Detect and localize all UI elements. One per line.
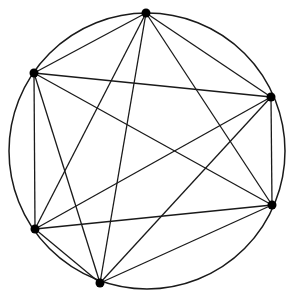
edge-D-E — [35, 229, 100, 283]
edge-A-F — [34, 13, 146, 73]
vertex-C — [268, 201, 277, 210]
edge-B-C — [271, 97, 272, 205]
edge-A-E — [35, 13, 146, 229]
vertex-A — [142, 9, 151, 18]
edge-A-B — [146, 13, 271, 97]
edge-A-C — [146, 13, 272, 205]
chord-edges — [34, 13, 272, 283]
vertex-E — [31, 225, 40, 234]
vertex-F — [30, 69, 39, 78]
edge-A-D — [100, 13, 146, 283]
circle-graph-diagram — [0, 0, 294, 301]
edge-C-D — [100, 205, 272, 283]
vertex-B — [267, 93, 276, 102]
circumscribed-circle — [9, 13, 285, 289]
vertex-D — [96, 279, 105, 288]
edge-E-F — [34, 73, 35, 229]
vertex-points — [30, 9, 277, 288]
